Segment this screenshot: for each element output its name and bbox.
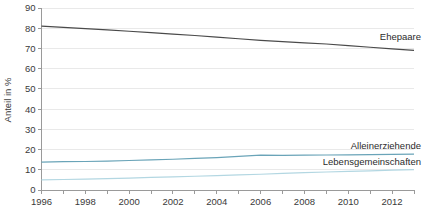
x-tick-label: 2002	[162, 196, 183, 207]
y-tick-label: 60	[25, 63, 36, 74]
y-tick-label: 20	[25, 144, 36, 155]
x-tick-label: 2008	[294, 196, 315, 207]
y-axis: 9080706050403020100	[25, 2, 42, 195]
series-line-lebensgemeinschaften	[42, 170, 415, 180]
y-tick-label: 70	[25, 43, 36, 54]
x-axis: 199619982000200220042006200820102012	[31, 190, 414, 207]
series-label-lebensgemeinschaften: Lebensgemeinschaften	[323, 156, 421, 167]
series-label-alleinerziehende: Alleinerziehende	[351, 140, 421, 151]
line-chart: 9080706050403020100 19961998200020022004…	[0, 0, 423, 222]
series-label-ehepaare: Ehepaare	[380, 31, 421, 42]
x-tick-label: 1996	[31, 196, 52, 207]
y-tick-label: 0	[30, 184, 35, 195]
series-labels: EhepaareAlleinerziehendeLebensgemeinscha…	[323, 31, 421, 166]
x-tick-label: 2006	[250, 196, 271, 207]
y-tick-label: 10	[25, 164, 36, 175]
x-tick-label: 2012	[382, 196, 403, 207]
y-tick-label: 40	[25, 104, 36, 115]
x-tick-label: 1998	[75, 196, 96, 207]
y-axis-title: Anteil in %	[2, 77, 13, 122]
x-tick-label: 2004	[206, 196, 227, 207]
y-tick-label: 90	[25, 2, 36, 13]
x-tick-label: 2000	[119, 196, 140, 207]
y-tick-label: 80	[25, 23, 36, 34]
series-line-ehepaare	[42, 26, 415, 50]
x-tick-label: 2010	[338, 196, 359, 207]
chart-canvas: 9080706050403020100 19961998200020022004…	[0, 0, 423, 222]
y-tick-label: 30	[25, 124, 36, 135]
y-tick-label: 50	[25, 83, 36, 94]
